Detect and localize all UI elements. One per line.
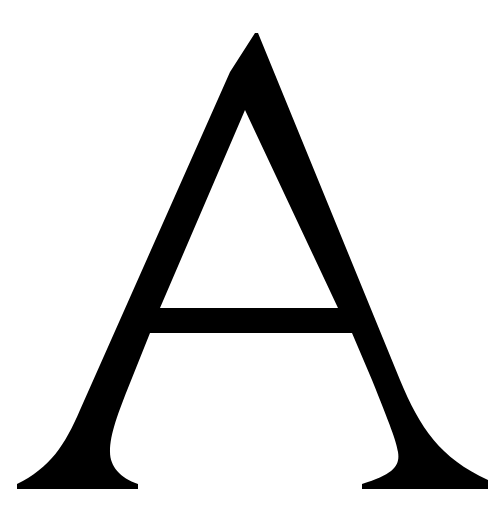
letter-a-icon	[0, 0, 497, 524]
letter-a-glyph: A	[0, 0, 497, 524]
